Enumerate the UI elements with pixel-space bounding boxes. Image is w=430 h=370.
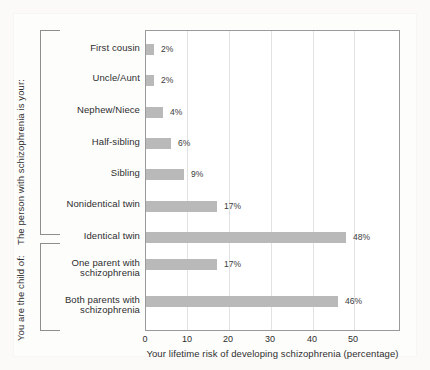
x-axis-title: Your lifetime risk of developing schizop…	[145, 348, 400, 359]
category-axis-labels: First cousin Uncle/Aunt Nephew/Niece Hal…	[33, 0, 140, 370]
xtick-40: 40	[307, 334, 317, 344]
xtick-30: 30	[265, 334, 275, 344]
bar-first-cousin	[146, 44, 154, 55]
value-label-one-parent: 17%	[224, 259, 241, 270]
group-label-parents: You are the child of:	[15, 255, 26, 341]
gridline-10	[187, 31, 188, 330]
category-label-first-cousin: First cousin	[35, 43, 140, 54]
bar-sibling	[146, 169, 184, 180]
value-label-identical-twin: 48%	[353, 232, 370, 243]
value-label-both-parents: 46%	[345, 296, 362, 307]
bar-half-sibling	[146, 138, 171, 149]
value-label-uncle-aunt: 2%	[161, 75, 173, 86]
group-label-relatives: The person with schizophrenia is your:	[15, 79, 26, 245]
value-label-nephew-niece: 4%	[170, 107, 182, 118]
value-label-first-cousin: 2%	[161, 44, 173, 55]
value-label-nonidentical-twin: 17%	[224, 201, 241, 212]
value-label-half-sibling: 6%	[178, 138, 190, 149]
xtick-0: 0	[142, 334, 147, 344]
chart-page: The person with schizophrenia is your: Y…	[0, 0, 430, 370]
bar-nonidentical-twin	[146, 201, 217, 212]
plot-area: 2% 2% 4% 6% 9% 17% 48% 17% 46%	[145, 30, 400, 331]
gridline-40	[313, 31, 314, 330]
bar-nephew-niece	[146, 107, 163, 118]
value-label-sibling: 9%	[191, 169, 203, 180]
xtick-10: 10	[182, 334, 192, 344]
category-label-nonidentical-twin: Nonidentical twin	[35, 199, 140, 210]
category-label-one-parent-line2: schizophrenia	[35, 268, 140, 279]
gridline-20	[229, 31, 230, 330]
category-label-nephew-niece: Nephew/Niece	[35, 105, 140, 116]
bar-one-parent	[146, 259, 217, 270]
gridline-30	[271, 31, 272, 330]
bar-identical-twin	[146, 232, 346, 243]
gridline-50	[354, 31, 355, 330]
category-label-identical-twin: Identical twin	[35, 231, 140, 242]
category-label-both-parents-line2: schizophrenia	[35, 305, 140, 316]
bar-uncle-aunt	[146, 75, 154, 86]
xtick-50: 50	[348, 334, 358, 344]
category-label-half-sibling: Half-sibling	[35, 137, 140, 148]
category-label-uncle-aunt: Uncle/Aunt	[35, 73, 140, 84]
xtick-20: 20	[223, 334, 233, 344]
bar-both-parents	[146, 296, 338, 307]
category-label-sibling: Sibling	[35, 168, 140, 179]
